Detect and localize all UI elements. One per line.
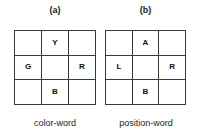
- grid-cell: [159, 31, 186, 56]
- caption-position-word: position-word: [100, 118, 192, 128]
- caption-color-word: color-word: [8, 118, 102, 128]
- grid-cell: R: [159, 56, 186, 81]
- grid-position-word: A L R B: [105, 30, 186, 105]
- grid-color-word: Y G R B: [14, 30, 96, 105]
- stimulus-figure: (a) Y G R B color-word (b) A L R B posit…: [0, 0, 201, 138]
- grid-cell: B: [42, 80, 69, 105]
- grid-cell: [106, 80, 133, 105]
- grid-cell: R: [69, 56, 96, 81]
- grid-cell: [69, 31, 96, 56]
- grid-cell: [133, 56, 160, 81]
- grid-cell: [159, 80, 186, 105]
- panel-label-a: (a): [14, 5, 96, 15]
- grid-cell: B: [133, 80, 160, 105]
- grid-cell: [15, 31, 42, 56]
- grid-cell: [69, 80, 96, 105]
- grid-cell: [15, 80, 42, 105]
- grid-cell: [42, 56, 69, 81]
- grid-cell: L: [106, 56, 133, 81]
- grid-cell: Y: [42, 31, 69, 56]
- grid-cell: [106, 31, 133, 56]
- grid-cell: A: [133, 31, 160, 56]
- panel-label-b: (b): [105, 5, 186, 15]
- grid-cell: G: [15, 56, 42, 81]
